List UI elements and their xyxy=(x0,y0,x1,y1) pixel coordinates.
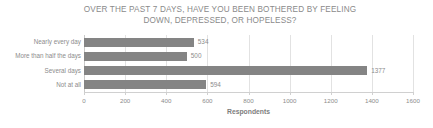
bar-value-label: 534 xyxy=(198,37,209,47)
y-axis-category-labels: Nearly every dayMore than half the daysS… xyxy=(0,35,81,92)
x-tick-1400 xyxy=(372,92,373,95)
x-tick-1000 xyxy=(290,92,291,95)
x-tick-0 xyxy=(84,92,85,95)
bar-row: 594 xyxy=(84,78,413,92)
bar-row: 500 xyxy=(84,49,413,63)
x-tick-1600 xyxy=(413,92,414,95)
category-label: More than half the days xyxy=(0,51,81,61)
chart-title: OVER THE PAST 7 DAYS, HAVE YOU BEEN BOTH… xyxy=(40,4,400,26)
x-tick-400 xyxy=(166,92,167,95)
x-axis-title: Respondents xyxy=(84,108,413,115)
gridline-1600 xyxy=(413,35,414,92)
bar-row: 534 xyxy=(84,35,413,49)
x-tick-label-1400: 1400 xyxy=(365,96,379,105)
chart-title-line-1: OVER THE PAST 7 DAYS, HAVE YOU BEEN BOTH… xyxy=(84,5,356,14)
x-tick-label-0: 0 xyxy=(82,96,85,105)
x-tick-label-1000: 1000 xyxy=(283,96,297,105)
x-tick-label-1600: 1600 xyxy=(406,96,420,105)
category-label: Not at all xyxy=(0,80,81,90)
category-label: Several days xyxy=(0,66,81,76)
x-tick-label-800: 800 xyxy=(243,96,253,105)
bar-value-label: 1377 xyxy=(371,66,385,76)
x-tick-label-200: 200 xyxy=(120,96,130,105)
x-tick-label-400: 400 xyxy=(161,96,171,105)
x-tick-label-600: 600 xyxy=(202,96,212,105)
x-tick-600 xyxy=(207,92,208,95)
x-tick-200 xyxy=(125,92,126,95)
bar-value-label: 594 xyxy=(210,80,221,90)
chart-title-line-2: DOWN, DEPRESSED, OR HOPELESS? xyxy=(143,16,296,25)
bar xyxy=(84,80,206,89)
bar-chart: OVER THE PAST 7 DAYS, HAVE YOU BEEN BOTH… xyxy=(0,0,433,128)
bar xyxy=(84,52,187,61)
bar-row: 1377 xyxy=(84,64,413,78)
bar xyxy=(84,38,194,47)
x-tick-1200 xyxy=(331,92,332,95)
category-label: Nearly every day xyxy=(0,37,81,47)
x-tick-800 xyxy=(249,92,250,95)
bar-value-label: 500 xyxy=(191,51,202,61)
x-tick-label-1200: 1200 xyxy=(324,96,338,105)
plot-area: 5345001377594 xyxy=(84,35,413,92)
bar xyxy=(84,66,367,75)
